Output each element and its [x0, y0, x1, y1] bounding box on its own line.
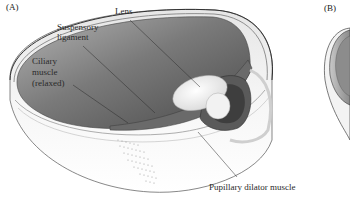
panel-b-eyeball — [324, 28, 350, 140]
eye-cross-section-illustration — [0, 0, 350, 205]
suspensory-ligament-label-line2: ligament — [57, 32, 89, 42]
eye-anatomy-figure: (A) (B) Lens Suspensory ligament Ciliary… — [0, 0, 350, 205]
ciliary-muscle-label-line3: (relaxed) — [32, 78, 64, 88]
panel-a-label: (A) — [6, 3, 19, 12]
panel-a-eyeball — [10, 9, 273, 192]
ciliary-muscle-label-line1: Ciliary — [32, 56, 57, 66]
panel-b-label: (B) — [324, 4, 336, 13]
ciliary-muscle-label-line2: muscle — [32, 67, 58, 77]
suspensory-ligament-label-line1: Suspensory — [57, 22, 99, 32]
lens-label: Lens — [115, 6, 133, 16]
pupillary-dilator-muscle-label: Pupillary dilator muscle — [209, 182, 295, 192]
